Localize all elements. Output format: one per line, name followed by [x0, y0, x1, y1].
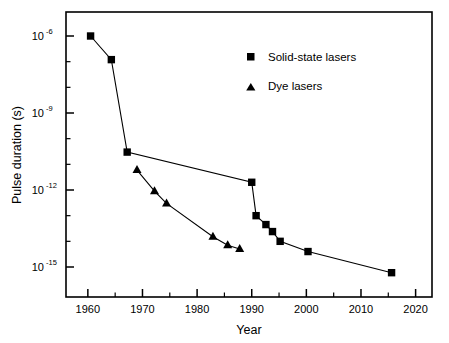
- y-tick-label: 10: [32, 107, 44, 119]
- x-axis-tick-labels: 1960197019801990200020102020: [76, 303, 428, 315]
- data-point-square-marker: [123, 148, 130, 155]
- x-axis-ticks: [88, 289, 416, 297]
- data-point-triangle-marker: [208, 232, 217, 240]
- series-line: [137, 170, 240, 249]
- pulse-duration-vs-year-chart: 1960197019801990200020102020 10-610-910-…: [0, 0, 449, 343]
- series-solid-state-lasers: [87, 32, 395, 276]
- chart-legend: Solid-state lasers Dye lasers: [246, 51, 356, 92]
- y-tick-label: 10: [32, 261, 44, 273]
- y-tick-label: 10: [32, 30, 44, 42]
- data-point-triangle-marker: [133, 165, 142, 173]
- y-tick-exponent: -12: [46, 181, 57, 190]
- y-tick-exponent: -15: [46, 258, 57, 267]
- data-point-square-marker: [304, 248, 311, 255]
- legend-marker-square-icon: [247, 53, 255, 61]
- y-axis-ticks: [66, 36, 74, 267]
- legend-label-dye: Dye lasers: [268, 80, 323, 92]
- legend-label-solid-state: Solid-state lasers: [268, 51, 356, 63]
- data-point-square-marker: [108, 56, 115, 63]
- x-tick-label: 2020: [403, 303, 427, 315]
- x-tick-label: 2000: [294, 303, 318, 315]
- data-point-square-marker: [248, 179, 255, 186]
- data-point-square-marker: [252, 212, 259, 219]
- y-tick-exponent: -9: [46, 104, 53, 113]
- y-axis-tick-labels: 10-610-910-1210-15: [32, 27, 57, 273]
- x-tick-label: 1960: [76, 303, 100, 315]
- x-tick-label: 1970: [130, 303, 154, 315]
- data-point-square-marker: [276, 238, 283, 245]
- data-point-square-marker: [262, 221, 269, 228]
- data-point-triangle-marker: [223, 240, 232, 248]
- y-tick-exponent: -6: [46, 27, 53, 36]
- y-tick-label: 10: [32, 184, 44, 196]
- data-point-square-marker: [87, 32, 94, 39]
- series-dye-lasers: [133, 165, 245, 252]
- chart-figure: 1960197019801990200020102020 10-610-910-…: [0, 0, 449, 343]
- y-axis-title: Pulse duration (s): [10, 106, 24, 204]
- x-tick-label: 2010: [349, 303, 373, 315]
- x-tick-label: 1990: [239, 303, 263, 315]
- data-point-square-marker: [388, 269, 395, 276]
- series-line: [91, 36, 392, 273]
- legend-marker-triangle-icon: [246, 83, 255, 91]
- data-point-square-marker: [269, 228, 276, 235]
- x-tick-label: 1980: [185, 303, 209, 315]
- x-axis-title: Year: [236, 323, 261, 337]
